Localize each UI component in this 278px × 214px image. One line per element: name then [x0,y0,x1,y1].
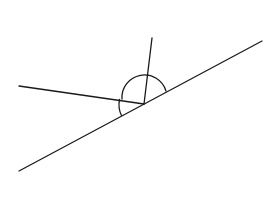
main-line [19,41,262,171]
upper-ray [144,38,152,104]
geometry-diagram [0,0,278,214]
diagram-svg [0,0,278,214]
left-ray [19,86,144,104]
lower-left-angle-arc [119,100,122,116]
